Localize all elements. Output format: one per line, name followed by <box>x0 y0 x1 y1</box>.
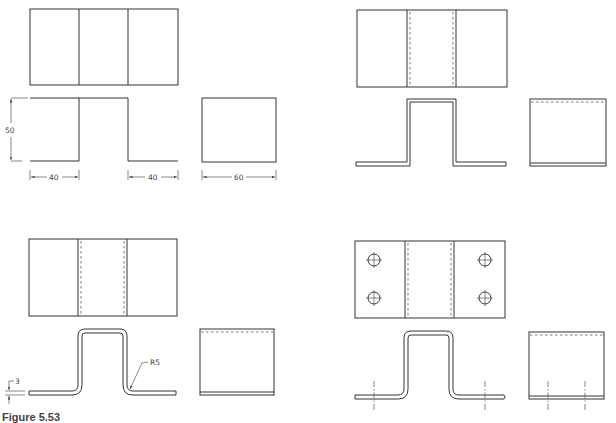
thickness-dimension: 3 <box>5 377 25 404</box>
depth-dimension: 60 <box>202 170 276 182</box>
side-view <box>529 332 604 410</box>
side-view <box>202 98 276 162</box>
top-view <box>357 10 507 87</box>
side-view <box>200 329 274 395</box>
panel-step1: 50 40 40 60 <box>5 9 276 182</box>
top-view <box>30 9 178 85</box>
top-view <box>355 241 505 318</box>
left-flange-dimension: 40 <box>30 170 79 182</box>
dimension-depth: 60 <box>234 173 244 182</box>
side-view <box>530 99 606 166</box>
right-flange-dimension: 40 <box>128 170 178 182</box>
hole-bottom-left <box>366 290 382 306</box>
front-view <box>356 99 506 166</box>
panel-step2 <box>356 10 606 166</box>
figure-caption: Figure 5.53 <box>2 411 60 423</box>
dimension-height: 50 <box>5 126 15 135</box>
dimension-right-flange: 40 <box>148 173 158 182</box>
hole-bottom-right <box>477 290 493 306</box>
panel-step3: 3 R5 <box>5 239 274 404</box>
bend-radius-callout: R5 <box>130 358 160 389</box>
dimension-bend-radius: R5 <box>150 358 160 367</box>
panel-step4 <box>355 241 604 410</box>
top-view <box>29 239 177 316</box>
hole-top-right <box>477 252 493 268</box>
height-dimension: 50 <box>5 98 28 161</box>
front-view <box>30 98 178 161</box>
dimension-thickness: 3 <box>15 377 20 386</box>
front-view <box>355 331 505 410</box>
dimension-left-flange: 40 <box>49 173 59 182</box>
hole-top-left <box>366 252 382 268</box>
